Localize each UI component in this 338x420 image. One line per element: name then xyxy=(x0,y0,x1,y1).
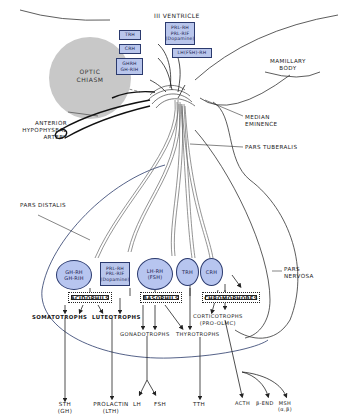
pars-tuberalis-label: PARS TUBERALIS xyxy=(245,144,297,151)
anterior-hypophyseal-artery-label: ANTERIOR HYPOPHYSEAL ARTERY xyxy=(5,120,67,141)
trh-ellipse: TRH xyxy=(176,258,199,286)
ghrh-box: GHRH GH-RIH xyxy=(116,58,143,75)
corticotrophs-label: CORTICOTROPHS (PRO-OLMC) xyxy=(193,313,243,326)
third-ventricle-label: III VENTRICLE xyxy=(154,12,200,20)
sth-label: STH (GH) xyxy=(54,401,76,415)
chromophobes-group: CHROMOPHOBES xyxy=(202,292,260,303)
pars-distalis-label: PARS DISTALIS xyxy=(20,202,66,209)
prolactin-label: PROLACTIN (LTH) xyxy=(91,401,131,415)
prl-box: PRL-RH PRL-RIF (Dopamine) xyxy=(165,22,195,45)
msh-label: MSH (α,β) xyxy=(278,400,292,413)
crh-box: CRH xyxy=(119,44,141,54)
lh-rh-ellipse: LH-RH (FSH) xyxy=(137,258,173,290)
lh-fsh-rh-box: LH(FSH)-RH xyxy=(172,48,212,58)
lh-label: LH xyxy=(133,401,141,408)
pars-nervosa-label: PARS NERVOSA xyxy=(284,266,314,280)
basophils-group: BASOPHILS xyxy=(140,292,182,303)
mamillary-body-label: MAMILLARY BODY xyxy=(270,58,306,72)
trh-box: TRH xyxy=(119,30,141,40)
gonadotrophs-label: GONADOTROPHS xyxy=(120,331,170,338)
crh-ellipse: CRH xyxy=(200,258,223,286)
optic-chiasm-label: OPTIC CHIASM xyxy=(60,68,120,84)
fsh-label: FSH xyxy=(154,401,166,408)
beta-end-label: β-END xyxy=(256,400,274,406)
somatotrophs-label: SOMATOTROPHS xyxy=(32,314,87,321)
luteotrophs-label: LUTEOTROPHS xyxy=(92,314,141,321)
thyrotrophs-label: THYROTROPHS xyxy=(176,331,220,338)
acidophils-group: ACIDOPHILS xyxy=(68,292,112,303)
acth-label: ACTH xyxy=(235,400,250,406)
prl-rh-box: PRL-RH PRL-RIF (Dopamine) xyxy=(100,262,130,286)
tth-label: TTH xyxy=(193,401,205,408)
gh-rh-ellipse: GH-RH GH-RIH xyxy=(56,260,92,290)
median-eminence-label: MEDIAN EMINENCE xyxy=(245,114,278,128)
